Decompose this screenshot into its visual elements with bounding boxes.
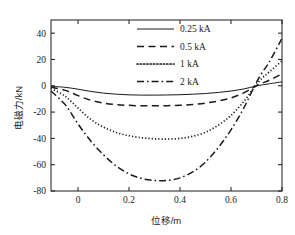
series-line-0-5-ka xyxy=(51,74,282,106)
series-line-0-25-ka xyxy=(51,82,282,95)
y-tick-label: 20 xyxy=(37,55,47,65)
data-series-group xyxy=(51,38,282,180)
y-tick-label: -20 xyxy=(33,107,46,117)
y-axis-tick-labels: 40200-20-40-60-80 xyxy=(33,29,46,197)
y-axis-title: 电磁力/kN xyxy=(13,86,24,130)
x-tick-label: 0.8 xyxy=(276,195,288,205)
chart-canvas: 00.20.40.60.8 40200-20-40-60-80 0.25 kA0… xyxy=(0,0,295,235)
series-line-2-ka xyxy=(51,38,282,180)
y-tick-label: -80 xyxy=(33,186,46,196)
legend-label-1-ka: 1 kA xyxy=(180,59,199,69)
x-tick-label: 0 xyxy=(76,195,81,205)
x-tick-label: 0.4 xyxy=(174,195,186,205)
x-tick-label: 0.6 xyxy=(225,195,237,205)
x-axis-title: 位移/m xyxy=(151,215,182,226)
x-tick-label: 0.2 xyxy=(123,195,135,205)
legend-label-2-ka: 2 kA xyxy=(180,77,199,87)
legend-label-0-25-ka: 0.25 kA xyxy=(180,24,211,34)
y-tick-label: -40 xyxy=(33,134,46,144)
chart-figure: 00.20.40.60.8 40200-20-40-60-80 0.25 kA0… xyxy=(0,0,295,235)
y-axis-ticks xyxy=(51,33,282,191)
y-tick-label: 0 xyxy=(41,81,46,91)
legend-label-0-5-ka: 0.5 kA xyxy=(180,42,206,52)
y-tick-label: 40 xyxy=(37,29,47,39)
series-line-1-ka xyxy=(51,61,282,139)
y-tick-label: -60 xyxy=(33,160,46,170)
x-axis-tick-labels: 00.20.40.60.8 xyxy=(76,195,289,205)
chart-legend: 0.25 kA0.5 kA1 kA2 kA xyxy=(137,24,211,87)
